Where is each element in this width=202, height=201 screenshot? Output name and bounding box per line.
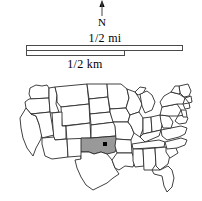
- scale-bar-kilometers: [26, 50, 125, 56]
- scale-bar-group: 1/2 mi 1/2 km: [0, 31, 202, 73]
- scale-kilometers-label: 1/2 km: [35, 57, 135, 71]
- location-dot: [103, 142, 107, 146]
- north-label: N: [90, 16, 114, 29]
- scale-miles-label: 1/2 mi: [55, 31, 155, 45]
- us-locator-map: [9, 82, 195, 198]
- highlighted-state-oklahoma: [81, 136, 118, 154]
- map-legend-panel: N 1/2 mi 1/2 km: [0, 0, 202, 201]
